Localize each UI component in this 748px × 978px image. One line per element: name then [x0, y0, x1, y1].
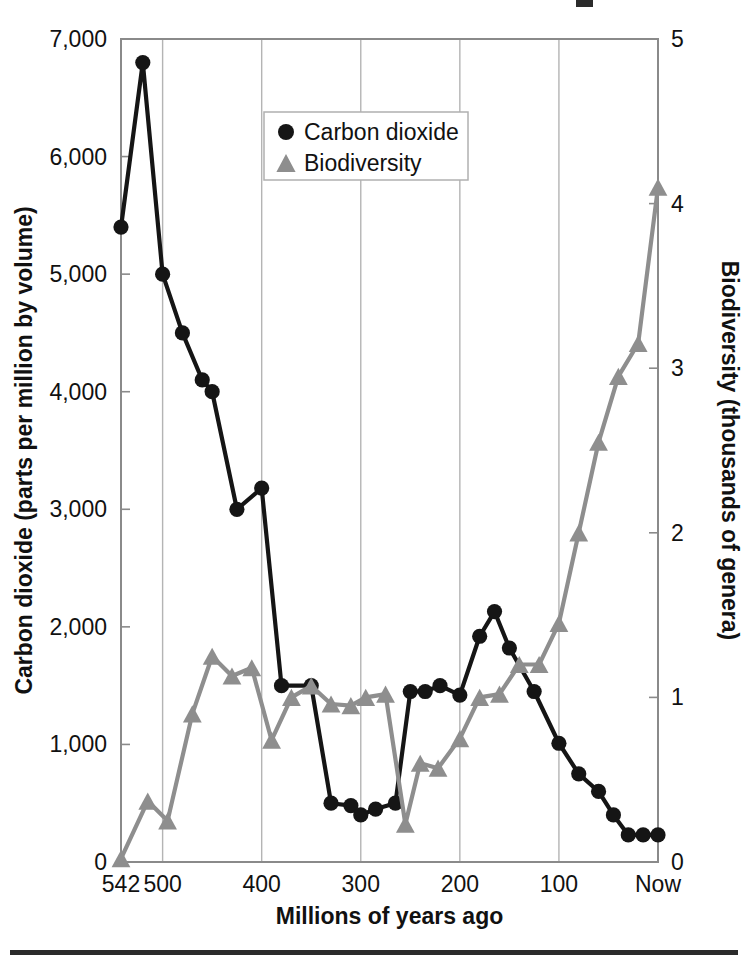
ytick-label-right-5: 5: [671, 26, 684, 52]
xtick-label-300: 300: [342, 871, 380, 897]
x-axis-title: Millions of years ago: [276, 903, 504, 929]
figure-container: 01,0002,0003,0004,0005,0006,0007,0000123…: [0, 0, 748, 978]
data-point-carbon-dioxide: [229, 502, 244, 517]
data-point-biodiversity: [629, 335, 648, 352]
bottom-rule-divider: [10, 950, 738, 955]
data-point-biodiversity: [112, 850, 131, 867]
series-biodiversity: [112, 179, 668, 868]
ytick-label-right-2: 2: [671, 520, 684, 546]
data-point-carbon-dioxide: [155, 267, 170, 282]
data-point-carbon-dioxide: [353, 807, 368, 822]
data-point-biodiversity: [609, 368, 628, 385]
xtick-label-100: 100: [540, 871, 578, 897]
data-point-biodiversity: [396, 816, 415, 833]
data-point-carbon-dioxide: [650, 827, 665, 842]
data-point-carbon-dioxide: [472, 629, 487, 644]
data-point-carbon-dioxide: [368, 801, 383, 816]
data-point-carbon-dioxide: [571, 766, 586, 781]
data-point-carbon-dioxide: [418, 684, 433, 699]
xtick-label-542: 542: [102, 871, 140, 897]
data-point-carbon-dioxide: [403, 684, 418, 699]
data-point-biodiversity: [242, 659, 261, 676]
chart-legend: Carbon dioxideBiodiversity: [264, 112, 468, 180]
ytick-label-right-4: 4: [671, 191, 684, 217]
ytick-label-right-3: 3: [671, 355, 684, 381]
series-line-biodiversity: [121, 187, 658, 859]
data-point-carbon-dioxide: [432, 678, 447, 693]
xtick-label-400: 400: [243, 871, 281, 897]
biodiversity-co2-line-chart: 01,0002,0003,0004,0005,0006,0007,0000123…: [0, 0, 748, 978]
ytick-label-left-2000: 2,000: [49, 614, 107, 640]
ytick-label-left-3000: 3,000: [49, 496, 107, 522]
data-point-carbon-dioxide: [636, 827, 651, 842]
data-point-carbon-dioxide: [621, 827, 636, 842]
y-axis-title-right: Biodiversity (thousands of genera): [717, 261, 743, 641]
data-point-carbon-dioxide: [274, 678, 289, 693]
data-point-carbon-dioxide: [502, 640, 517, 655]
ytick-label-left-6000: 6,000: [49, 144, 107, 170]
data-point-biodiversity: [183, 705, 202, 722]
data-point-carbon-dioxide: [113, 220, 128, 235]
data-point-biodiversity: [138, 792, 157, 809]
data-point-carbon-dioxide: [195, 372, 210, 387]
data-point-biodiversity: [262, 732, 281, 749]
data-point-carbon-dioxide: [135, 55, 150, 70]
legend-label-0: Carbon dioxide: [304, 119, 459, 145]
ytick-label-left-5000: 5,000: [49, 261, 107, 287]
data-point-carbon-dioxide: [175, 325, 190, 340]
data-point-carbon-dioxide: [452, 687, 467, 702]
ytick-label-left-4000: 4,000: [49, 379, 107, 405]
data-point-carbon-dioxide: [551, 736, 566, 751]
legend-label-1: Biodiversity: [304, 150, 422, 176]
data-point-biodiversity: [569, 524, 588, 541]
data-point-biodiversity: [649, 179, 668, 196]
data-point-biodiversity: [203, 648, 222, 665]
data-point-carbon-dioxide: [323, 796, 338, 811]
data-point-carbon-dioxide: [527, 684, 542, 699]
ytick-label-left-7000: 7,000: [49, 26, 107, 52]
data-point-biodiversity: [589, 434, 608, 451]
data-point-carbon-dioxide: [487, 604, 502, 619]
ytick-label-right-1: 1: [671, 684, 684, 710]
data-point-carbon-dioxide: [606, 807, 621, 822]
data-point-biodiversity: [550, 615, 569, 632]
xtick-label-500: 500: [143, 871, 181, 897]
data-point-carbon-dioxide: [591, 784, 606, 799]
xtick-label-200: 200: [441, 871, 479, 897]
ytick-label-left-1000: 1,000: [49, 731, 107, 757]
data-point-carbon-dioxide: [254, 481, 269, 496]
xtick-label-Now: Now: [635, 871, 681, 897]
data-point-carbon-dioxide: [205, 384, 220, 399]
data-point-biodiversity: [450, 730, 469, 747]
y-axis-title-left: Carbon dioxide (parts per million by vol…: [11, 206, 37, 694]
legend-circle-marker-icon: [278, 124, 294, 140]
